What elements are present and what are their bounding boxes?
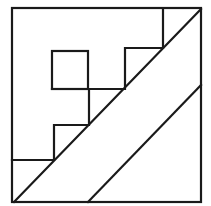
main-diagonal: [14, 9, 201, 202]
inner-square: [52, 51, 88, 89]
diagram-canvas: [0, 0, 211, 206]
parallel-diagonal: [88, 85, 201, 202]
